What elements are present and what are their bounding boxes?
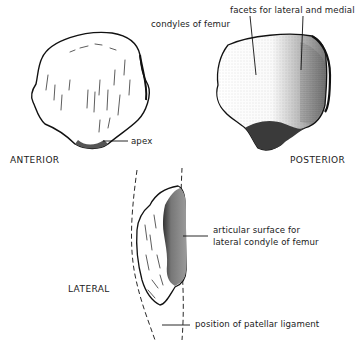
lateral-view-label: LATERAL [68, 284, 110, 294]
apex-label: apex [131, 136, 152, 146]
posterior-patella-drawing [217, 16, 330, 150]
posterior-view-label: POSTERIOR [290, 155, 345, 165]
anterior-patella-drawing [32, 32, 150, 148]
articular-label-line1: articular surface for [213, 225, 300, 235]
facets-label-line1: facets for lateral and medial [230, 5, 355, 15]
facets-label-line2: condyles of femur [151, 19, 230, 29]
patella-illustration [0, 0, 355, 351]
ligament-label: position of patellar ligament [195, 319, 319, 329]
anterior-view-label: ANTERIOR [10, 155, 60, 165]
lateral-patella-drawing [131, 168, 208, 340]
articular-label-line2: lateral condyle of femur [213, 237, 319, 247]
